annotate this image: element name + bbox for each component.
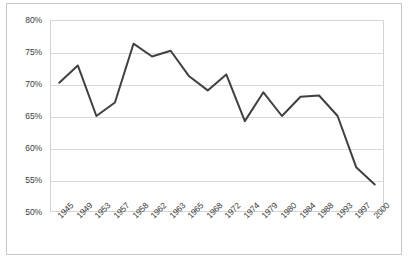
y-axis-tick-label: 50%	[25, 208, 42, 217]
x-axis: 1945194919531957195819621963196519681972…	[50, 214, 384, 258]
y-axis-tick-label: 80%	[25, 16, 42, 25]
y-axis-tick-label: 55%	[25, 176, 42, 185]
data-series-group	[50, 20, 384, 212]
y-axis-tick-label: 70%	[25, 80, 42, 89]
line-chart: 50%55%60%65%70%75%80% 194519491953195719…	[0, 0, 409, 268]
figure-container: 50%55%60%65%70%75%80% 194519491953195719…	[0, 0, 409, 268]
y-axis-tick-label: 60%	[25, 144, 42, 153]
y-axis: 50%55%60%65%70%75%80%	[0, 20, 46, 212]
y-axis-tick-label: 75%	[25, 48, 42, 57]
series-line	[59, 44, 374, 185]
y-axis-tick-label: 65%	[25, 112, 42, 121]
